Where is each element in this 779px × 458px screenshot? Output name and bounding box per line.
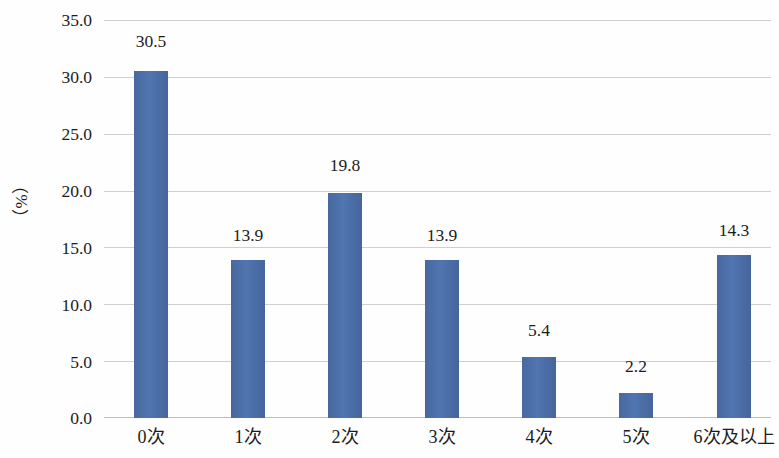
value-label-4ci: 5.4 bbox=[499, 322, 579, 340]
y-tick-label-5: 5.0 bbox=[22, 354, 92, 372]
y-tick-label-25: 25.0 bbox=[22, 126, 92, 144]
value-label-3ci: 13.9 bbox=[402, 227, 482, 245]
y-tick-label-10: 10.0 bbox=[22, 297, 92, 315]
bar-0ci[interactable] bbox=[134, 71, 168, 418]
bar-2ci[interactable] bbox=[328, 193, 362, 418]
value-label-2ci: 19.8 bbox=[305, 157, 385, 175]
bar-5ci[interactable] bbox=[619, 393, 653, 418]
y-tick-label-30: 30.0 bbox=[22, 69, 92, 87]
gridline-35 bbox=[104, 20, 771, 21]
bar-chart: （%） 35.0 30.0 25.0 20.0 15.0 10.0 5.0 0.… bbox=[0, 0, 779, 458]
gridline-15 bbox=[104, 247, 771, 248]
y-tick-label-0: 0.0 bbox=[22, 410, 92, 428]
bar-1ci[interactable] bbox=[231, 260, 265, 418]
value-label-5ci: 2.2 bbox=[596, 358, 676, 376]
value-label-0ci: 30.5 bbox=[111, 33, 191, 51]
gridline-30 bbox=[104, 77, 771, 78]
gridline-25 bbox=[104, 134, 771, 135]
gridline-20 bbox=[104, 191, 771, 192]
bar-3ci[interactable] bbox=[425, 260, 459, 418]
value-label-6ci-yishang: 14.3 bbox=[694, 222, 774, 240]
y-tick-label-20: 20.0 bbox=[22, 183, 92, 201]
bar-6ci-yishang[interactable] bbox=[717, 255, 751, 418]
value-label-1ci: 13.9 bbox=[208, 227, 288, 245]
y-tick-label-35: 35.0 bbox=[22, 12, 92, 30]
bar-4ci[interactable] bbox=[522, 357, 556, 418]
y-tick-label-15: 15.0 bbox=[22, 240, 92, 258]
x-tick-label-6ci-yishang: 6次及以上 bbox=[659, 428, 779, 446]
